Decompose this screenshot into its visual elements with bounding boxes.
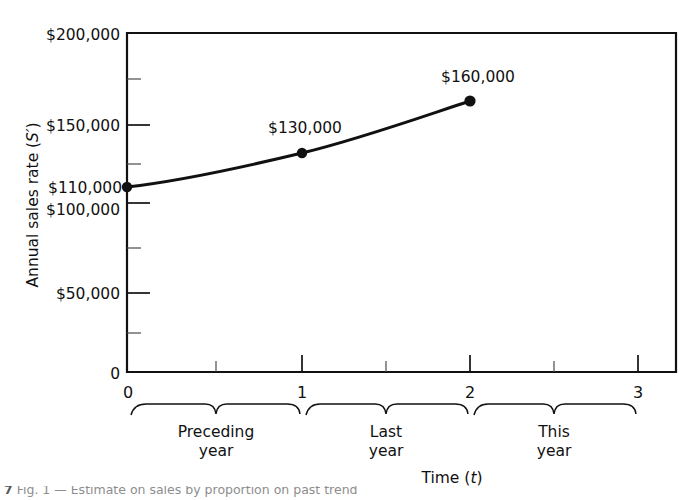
y-tick-label-100000: $100,000 bbox=[46, 201, 120, 219]
y-tick-label-200000: $200,000 bbox=[46, 26, 120, 44]
brace-preceding-year bbox=[131, 404, 300, 415]
x-tick-label-0: 0 bbox=[123, 383, 133, 402]
x-axis-major-ticks bbox=[302, 355, 638, 372]
x-tick-label-3: 3 bbox=[633, 383, 643, 402]
period-label-this-line2: year bbox=[537, 442, 572, 460]
y-tick-label-50000: $50,000 bbox=[56, 285, 120, 303]
plot-border bbox=[127, 33, 676, 372]
figure-caption-text: Fig. 1 — Estimate on sales by proportion… bbox=[17, 486, 358, 497]
svg-text:Annual sales rate (S′): Annual sales rate (S′) bbox=[24, 122, 42, 287]
period-braces bbox=[131, 404, 636, 415]
y-tick-label-110000: $110,000 bbox=[48, 179, 122, 197]
data-label-130000: $130,000 bbox=[268, 119, 342, 137]
brace-this-year bbox=[474, 404, 636, 415]
sales-rate-line-chart: $200,000 $150,000 $110,000 $100,000 $50,… bbox=[0, 0, 700, 500]
period-label-preceding-line2: year bbox=[199, 442, 234, 460]
x-axis-title: Time (t) bbox=[420, 469, 482, 487]
period-label-preceding-line1: Preceding bbox=[178, 423, 255, 441]
y-axis-minor-ticks bbox=[127, 79, 141, 333]
y-tick-label-0: 0 bbox=[110, 365, 120, 383]
y-axis-title-close: ) bbox=[24, 122, 42, 128]
figure-caption: 7 Fig. 1 — Estimate on sales by proporti… bbox=[0, 486, 700, 500]
x-axis-title-main: Time ( bbox=[420, 469, 470, 487]
data-point-year-1 bbox=[297, 148, 307, 158]
brace-last-year bbox=[306, 404, 468, 415]
x-tick-label-1: 1 bbox=[297, 383, 307, 402]
period-label-this-line1: This bbox=[537, 423, 570, 441]
figure-container: $200,000 $150,000 $110,000 $100,000 $50,… bbox=[0, 0, 700, 500]
y-axis-major-ticks bbox=[127, 125, 150, 293]
y-axis-title: Annual sales rate (S′) bbox=[24, 122, 42, 287]
x-axis-minor-ticks bbox=[216, 361, 554, 372]
data-point-year-0 bbox=[122, 182, 132, 192]
data-series bbox=[122, 95, 476, 192]
data-label-160000: $160,000 bbox=[441, 68, 515, 86]
y-axis-title-main: Annual sales rate ( bbox=[24, 142, 42, 288]
data-point-year-2 bbox=[464, 95, 475, 106]
figure-caption-label: 7 bbox=[4, 486, 13, 497]
y-tick-label-150000: $150,000 bbox=[46, 117, 120, 135]
y-axis-title-symbol: S′ bbox=[24, 128, 42, 142]
x-tick-label-2: 2 bbox=[465, 383, 475, 402]
plot-frame bbox=[127, 33, 676, 372]
svg-text:Time (t): Time (t) bbox=[420, 469, 482, 487]
x-axis-title-close: ) bbox=[476, 469, 482, 487]
period-label-last-line2: year bbox=[369, 442, 404, 460]
period-label-last-line1: Last bbox=[370, 423, 402, 441]
sales-rate-curve bbox=[127, 101, 470, 187]
